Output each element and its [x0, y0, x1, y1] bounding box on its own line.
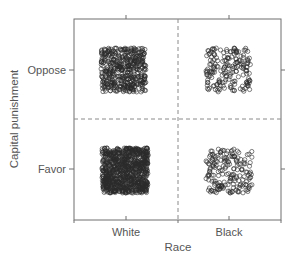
- cluster-black-favor: [204, 147, 254, 195]
- y-axis-title: Capital punishment: [8, 69, 20, 168]
- cluster-white-favor: [100, 146, 150, 195]
- y-tick-oppose: Oppose: [27, 64, 66, 76]
- scatter-plot: Oppose Favor White Black Race Capital pu…: [0, 0, 305, 261]
- y-tick-favor: Favor: [38, 163, 66, 175]
- x-tick-white: White: [112, 226, 140, 238]
- x-tick-black: Black: [216, 226, 243, 238]
- cluster-white-oppose: [99, 46, 148, 94]
- cluster-black-oppose: [204, 46, 252, 94]
- x-axis-title: Race: [165, 241, 192, 253]
